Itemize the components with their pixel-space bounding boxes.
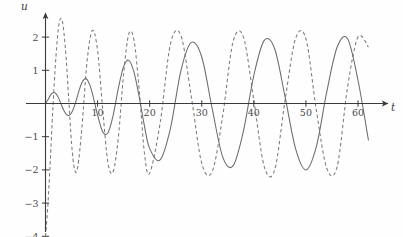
x-tick-label: 20 bbox=[144, 107, 156, 118]
axes-group bbox=[26, 13, 388, 232]
x-tick-label: 40 bbox=[248, 107, 260, 118]
curves-group bbox=[46, 18, 369, 236]
y-tick-label: −2 bbox=[24, 164, 38, 175]
x-tick-label: 10 bbox=[92, 107, 104, 118]
y-tick-label: −3 bbox=[24, 198, 38, 209]
figure-container: 102030405060 21−1−2−3−4 u t bbox=[0, 0, 403, 237]
x-tick-label: 60 bbox=[352, 107, 364, 118]
y-axis-label: u bbox=[21, 0, 28, 12]
x-tick-label: 30 bbox=[196, 107, 208, 118]
y-tick-label: 1 bbox=[32, 65, 38, 76]
y-tick-label: −1 bbox=[24, 131, 38, 142]
x-axis-label: t bbox=[391, 101, 396, 113]
y-tick-label: −4 bbox=[24, 231, 38, 237]
y-tick-label: 2 bbox=[32, 32, 38, 43]
x-tick-label: 50 bbox=[300, 107, 312, 118]
oscillation-chart: 102030405060 21−1−2−3−4 u t bbox=[0, 0, 403, 237]
